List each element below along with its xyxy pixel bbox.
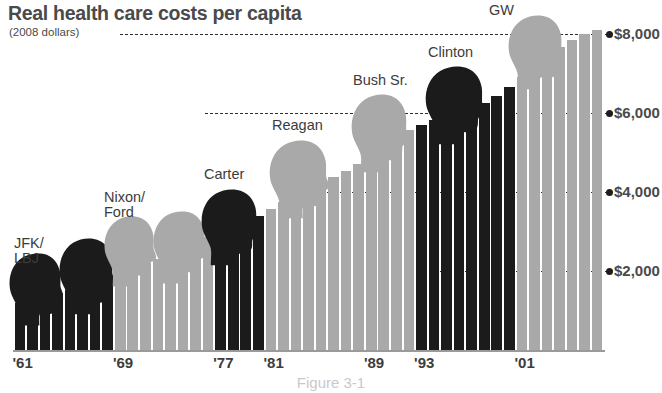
x-axis-label-93: '93 [414, 354, 434, 371]
x-axis-label-77: '77 [213, 354, 233, 371]
figure-caption: Figure 3-1 [0, 374, 662, 391]
bar-1994 [429, 120, 441, 350]
gridline-dot-icon [606, 110, 613, 117]
silhouette-gw [507, 14, 565, 90]
president-label-nixon-ford: Nixon/ Ford [104, 190, 145, 220]
silhouette-reagan [268, 139, 330, 219]
silhouette-bush-sr [350, 93, 410, 173]
bar-2001 [517, 77, 529, 350]
president-label-carter: Carter [204, 167, 244, 182]
y-axis-label-2000: $2,000 [614, 262, 660, 279]
president-label-reagan: Reagan [272, 118, 323, 133]
bar-2004 [554, 47, 566, 350]
bar-2002 [529, 66, 541, 350]
x-axis-label-81: '81 [264, 354, 284, 371]
gridline-dot-icon [606, 268, 613, 275]
bar-2007 [592, 30, 604, 350]
bar-1999 [491, 96, 503, 350]
bar-2003 [542, 56, 554, 350]
president-label-clinton: Clinton [428, 45, 473, 60]
president-label-gw: GW [489, 3, 514, 18]
y-axis-label-4000: $4,000 [614, 183, 660, 200]
bar-1996 [454, 113, 466, 350]
bar-1981 [266, 209, 278, 350]
president-label-jfk-lbj: JFK/ LBJ [14, 236, 44, 266]
president-label-bush-sr: Bush Sr. [353, 73, 408, 88]
bar-1987 [341, 171, 353, 350]
x-axis-label-61: '61 [13, 354, 33, 371]
x-axis-label-89: '89 [364, 354, 384, 371]
plot-area: $2,000$4,000$6,000$8,000 '61'69'77'81'89… [0, 0, 662, 393]
bar-1982 [278, 202, 290, 350]
bar-2006 [579, 34, 591, 350]
x-axis-label-01: '01 [515, 354, 535, 371]
bar-1986 [328, 177, 340, 350]
silhouette-clinton [424, 65, 486, 145]
bar-2005 [567, 40, 579, 350]
bar-1995 [441, 116, 453, 350]
y-axis-label-6000: $6,000 [614, 104, 660, 121]
bar-1989 [366, 156, 378, 350]
x-axis-label-69: '69 [113, 354, 133, 371]
y-axis-label-8000: $8,000 [614, 25, 660, 42]
gridline-dot-icon [606, 31, 613, 38]
health-care-costs-chart: Real health care costs per capita (2008 … [0, 0, 662, 393]
bar-2000 [504, 87, 516, 350]
bar-1988 [353, 164, 365, 350]
silhouette-nixon-ford-1 [103, 215, 157, 287]
gridline-dot-icon [606, 189, 613, 196]
axis-baseline [13, 350, 605, 352]
bar-1990 [378, 147, 390, 350]
bar-1993 [416, 125, 428, 350]
silhouette-carter [200, 188, 260, 266]
